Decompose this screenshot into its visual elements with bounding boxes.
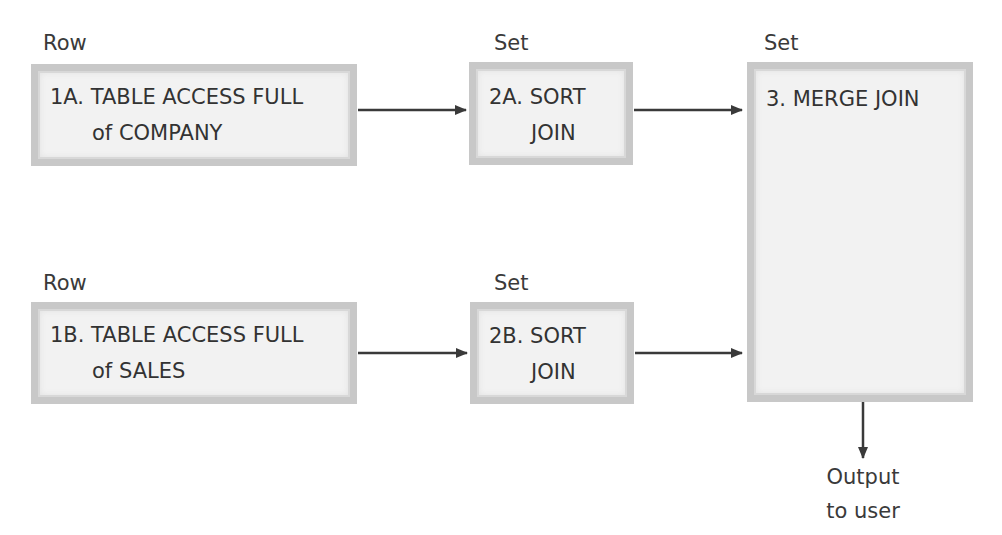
node-3-line1: 3. MERGE JOIN [766,81,920,117]
node-1b-line1: 1B. TABLE ACCESS FULL [50,317,304,353]
node-2a-type-label: Set [494,33,528,54]
node-2a-text: 2A. SORT JOIN [489,79,585,151]
node-1b-type-label: Row [43,273,87,294]
node-3-text: 3. MERGE JOIN [766,81,920,117]
node-2a-line1: 2A. SORT [489,79,585,115]
node-2b-line2: JOIN [489,354,586,390]
node-2b-type-label: Set [494,273,528,294]
node-1b-line2: of SALES [50,353,304,389]
node-3-type-label: Set [764,33,798,54]
node-1a-text: 1A. TABLE ACCESS FULL of COMPANY [50,79,303,151]
node-2b-line1: 2B. SORT [489,318,586,354]
node-1a-line2: of COMPANY [50,115,303,151]
node-2b-text: 2B. SORT JOIN [489,318,586,390]
node-1a-type-label: Row [43,33,87,54]
node-1b-text: 1B. TABLE ACCESS FULL of SALES [50,317,304,389]
output-line1: Output [803,460,923,494]
node-1a-line1: 1A. TABLE ACCESS FULL [50,79,303,115]
node-2a-line2: JOIN [489,115,585,151]
output-label: Output to user [803,460,923,528]
output-line2: to user [803,494,923,528]
